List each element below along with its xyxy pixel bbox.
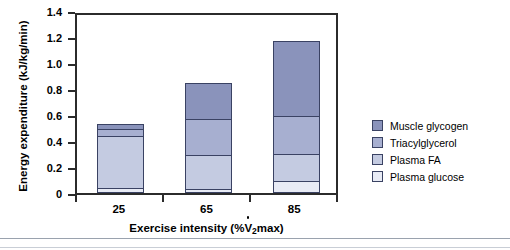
page-rule-bottom: [0, 247, 510, 248]
x-axis-tick: [336, 195, 338, 202]
bar-segment: [273, 154, 320, 181]
v-dot-letter: V: [244, 222, 252, 234]
y-axis-tick: [68, 64, 75, 66]
y-axis-tick: [68, 194, 75, 196]
y-axis-title: Energy expenditure (kJ/kg/min): [17, 6, 29, 206]
bar-segment: [185, 83, 232, 119]
y-axis-tick: [68, 168, 75, 170]
x-axis-category-label: 65: [177, 203, 237, 215]
bar-segment: [97, 188, 144, 193]
page-rule-top: [0, 238, 510, 239]
bar-stack: [273, 41, 320, 193]
y-axis-tick: [68, 142, 75, 144]
legend-swatch: [372, 120, 383, 131]
legend-label: Plasma FA: [390, 154, 441, 166]
bar-stack: [97, 124, 144, 193]
legend-swatch: [372, 171, 383, 182]
y-axis-tick: [68, 12, 75, 14]
bar-segment: [185, 155, 232, 189]
legend-label: Muscle glycogen: [390, 120, 468, 132]
legend-item: Plasma FA: [372, 151, 468, 168]
bar-segment: [185, 119, 232, 155]
bar-segment: [273, 181, 320, 193]
v-dot-symbol: V: [244, 222, 252, 234]
x-axis-tick: [162, 195, 164, 202]
bar-segment: [273, 116, 320, 154]
bar-segment: [97, 136, 144, 188]
bar-segment: [97, 124, 144, 129]
x-axis-title-subscript: 2: [252, 226, 257, 236]
legend: Muscle glycogenTriacylglycerolPlasma FAP…: [372, 117, 468, 185]
bar-segment: [185, 189, 232, 193]
x-axis-category-label: 85: [264, 203, 324, 215]
legend-label: Plasma glucose: [390, 171, 464, 183]
x-axis-tick: [249, 195, 251, 202]
bar-stack: [185, 83, 232, 194]
legend-swatch: [372, 154, 383, 165]
x-axis-title-prefix: Exercise intensity (%: [129, 222, 244, 234]
x-axis-title-suffix: max): [257, 222, 284, 234]
legend-label: Triacylglycerol: [390, 137, 457, 149]
legend-item: Muscle glycogen: [372, 117, 468, 134]
x-axis-title: Exercise intensity (%V2max): [75, 222, 338, 234]
plot-area: [75, 13, 338, 195]
y-axis-tick: [68, 116, 75, 118]
legend-item: Plasma glucose: [372, 168, 468, 185]
y-axis-tick: [68, 38, 75, 40]
bar-segment: [97, 129, 144, 136]
y-axis-tick: [68, 90, 75, 92]
bar-segment: [273, 41, 320, 116]
figure-stacked-bar-chart: Energy expenditure (kJ/kg/min) 00.20.40.…: [0, 0, 510, 250]
legend-item: Triacylglycerol: [372, 134, 468, 151]
x-axis-tick: [75, 195, 77, 202]
x-axis-category-label: 25: [89, 203, 149, 215]
legend-swatch: [372, 137, 383, 148]
